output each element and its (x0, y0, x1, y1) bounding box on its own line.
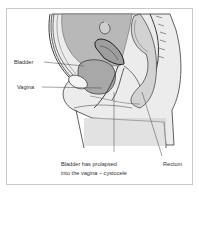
bladder-label: Bladder (14, 59, 33, 65)
caption-line-1: Bladder has prolapsed (61, 161, 117, 167)
caption-line-2: into the vagina – cystocele (61, 170, 127, 176)
vagina-label: Vagina (17, 84, 34, 90)
rectum-label: Rectum (163, 161, 182, 167)
